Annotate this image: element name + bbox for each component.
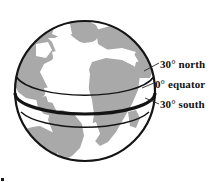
label-30-north: 30° north bbox=[160, 59, 205, 70]
label-0-equator: 0° equator bbox=[155, 79, 205, 90]
globe-diagram-svg bbox=[0, 0, 220, 182]
corner-artifact-mark bbox=[1, 178, 4, 181]
label-30-south: 30° south bbox=[160, 99, 205, 110]
globe-latitude-figure: 30° north 0° equator 30° south bbox=[0, 0, 220, 182]
